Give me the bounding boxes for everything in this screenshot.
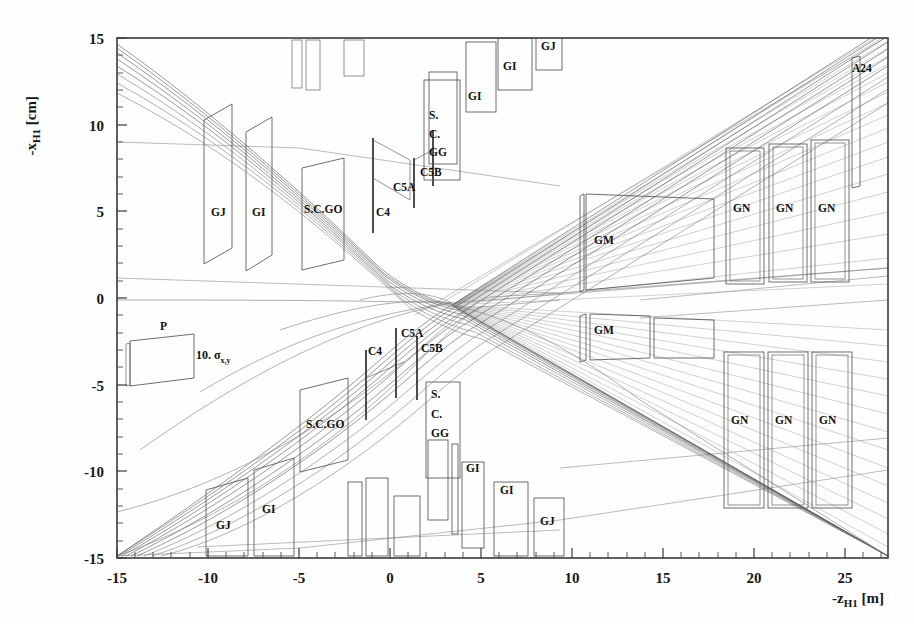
x-axis-title: -zH1 [m] <box>832 590 884 609</box>
component-labels: GJ GI S.C.GO C4 C5A C5B S. C. GG GI GI G… <box>160 40 872 531</box>
x-tick-label-3: 0 <box>386 570 394 586</box>
label-gi-lower: GI <box>262 503 276 515</box>
y-tick-label-10: 10 <box>89 118 104 134</box>
label-s-lower: S. <box>431 388 440 400</box>
svg-text:10. σx,y: 10. σx,y <box>196 348 231 365</box>
y-tick-label-m15: -15 <box>84 551 104 567</box>
beam-optics-plot: GJ GI S.C.GO C4 C5A C5B S. C. GG GI GI G… <box>0 0 914 624</box>
label-c-upper: C. <box>429 128 440 140</box>
label-gn-upper-1: GN <box>733 202 751 214</box>
label-gn-lower-3: GN <box>819 414 837 426</box>
label-p: P <box>160 320 167 332</box>
y-tick-label-5: 5 <box>97 204 105 220</box>
component-bar-2 <box>366 478 388 556</box>
figure-canvas: GJ GI S.C.GO C4 C5A C5B S. C. GG GI GI G… <box>0 0 914 624</box>
component-bar-1 <box>348 482 362 556</box>
x-tick-label-4: 5 <box>477 570 485 586</box>
label-gn-upper-3: GN <box>818 202 836 214</box>
label-c5a-lower: C5A <box>401 327 424 339</box>
component-p <box>130 334 194 386</box>
label-gg-upper: GG <box>429 146 447 158</box>
label-c4-upper: C4 <box>376 206 390 218</box>
label-a24: A24 <box>852 62 872 74</box>
label-s-upper: S. <box>429 109 438 121</box>
ray-fan-upper-right <box>415 30 888 315</box>
x-tick-label-5: 10 <box>565 570 580 586</box>
label-gi-upper: GI <box>252 206 266 218</box>
label-gj-lower-2: GJ <box>540 515 555 527</box>
label-gi-lower-2: GI <box>466 462 480 474</box>
label-gi-upper-3: GI <box>503 60 517 72</box>
x-axis-ticks <box>117 548 881 558</box>
sigma-annotation: 10. σx,y <box>196 348 231 365</box>
x-tick-label-6: 15 <box>656 570 671 586</box>
component-bar-3 <box>394 496 420 556</box>
x-tick-labels: -15 -10 -5 0 5 10 15 20 25 <box>107 570 853 586</box>
component-bar-5 <box>452 444 458 534</box>
component-gi-lower-2 <box>462 462 484 548</box>
x-tick-label-2: -5 <box>293 570 306 586</box>
label-c5b-lower: C5B <box>421 342 443 354</box>
label-c5a-upper: C5A <box>393 181 416 193</box>
label-gm-lower: GM <box>594 324 614 336</box>
label-gj-upper: GJ <box>211 206 226 218</box>
sigma-annotation-sub: x,y <box>221 356 231 365</box>
y-tick-labels: 15 10 5 0 -5 -10 -15 <box>84 31 104 567</box>
y-axis-ticks <box>117 38 127 558</box>
label-gn-lower-2: GN <box>775 414 793 426</box>
label-c4-lower: C4 <box>368 345 382 357</box>
y-tick-label-m5: -5 <box>92 378 105 394</box>
label-gj-upper-2: GJ <box>541 40 556 52</box>
x-tick-label-7: 20 <box>747 570 762 586</box>
component-gj-lower-2 <box>534 498 564 556</box>
component-gi-upper <box>246 117 272 271</box>
y-axis-title: -xH1 [cm] <box>23 96 42 155</box>
y-tick-label-0: 0 <box>97 291 105 307</box>
y-tick-label-m10: -10 <box>84 464 104 480</box>
label-c5b-upper: C5B <box>420 166 442 178</box>
x-tick-label-0: -15 <box>107 570 127 586</box>
y-tick-label-15: 15 <box>89 31 104 47</box>
component-bar-4 <box>428 440 448 520</box>
label-gm-upper: GM <box>594 234 614 246</box>
label-gg-lower: GG <box>431 427 449 439</box>
label-c-lower: C. <box>431 408 442 420</box>
x-tick-label-8: 25 <box>838 570 853 586</box>
label-scgo-upper: S.C.GO <box>304 203 342 215</box>
label-gn-upper-2: GN <box>776 202 794 214</box>
label-gj-lower: GJ <box>216 519 231 531</box>
lower-components <box>126 314 852 556</box>
label-scgo-lower: S.C.GO <box>306 418 344 430</box>
label-gn-lower-1: GN <box>731 414 749 426</box>
upper-components <box>204 36 860 292</box>
x-tick-label-1: -10 <box>198 570 218 586</box>
sigma-annotation-text: 10. σ <box>196 348 221 362</box>
label-gi-upper-2: GI <box>468 90 482 102</box>
label-gi-lower-3: GI <box>500 484 514 496</box>
